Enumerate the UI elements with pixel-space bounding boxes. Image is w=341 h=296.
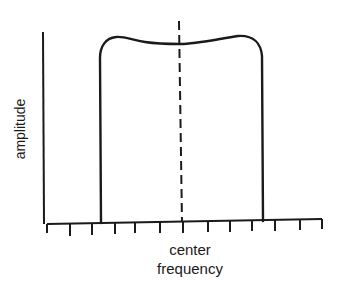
y-axis [43, 32, 44, 224]
x-axis-label-line1: center [130, 240, 250, 259]
center-frequency-marker [179, 21, 182, 222]
x-axis [47, 219, 322, 224]
y-axis-label: amplitude [10, 89, 30, 169]
x-axis-label-line2: frequency [130, 259, 250, 278]
x-axis-label: center frequency [130, 240, 250, 278]
